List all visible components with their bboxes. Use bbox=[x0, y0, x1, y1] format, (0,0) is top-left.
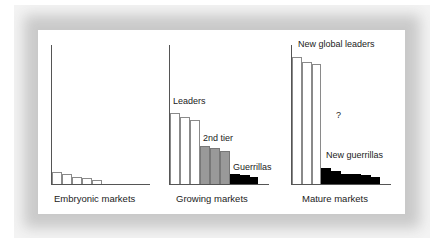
embryonic-bar bbox=[82, 178, 92, 184]
leader-bar bbox=[170, 113, 180, 184]
new-guerrilla-bar bbox=[351, 174, 361, 184]
growing-x-axis bbox=[169, 184, 269, 185]
second-tier-bar bbox=[220, 151, 230, 184]
embryonic-bar bbox=[62, 174, 72, 184]
embryonic-caption: Embryonic markets bbox=[54, 193, 135, 204]
question-mark-annotation: ? bbox=[336, 110, 341, 120]
embryonic-y-axis bbox=[51, 45, 52, 184]
leaders-label: Leaders bbox=[173, 96, 206, 106]
new-leader-bar bbox=[302, 62, 312, 184]
guerrilla-bar bbox=[230, 174, 240, 184]
leader-bar bbox=[180, 117, 190, 184]
mature-caption: Mature markets bbox=[302, 193, 368, 204]
embryonic-bar bbox=[92, 180, 102, 184]
second-tier-label: 2nd tier bbox=[203, 133, 233, 143]
diagram-panel bbox=[38, 30, 405, 214]
second-tier-bar bbox=[200, 146, 210, 184]
new-guerrilla-bar bbox=[321, 168, 331, 184]
new-guerrilla-bar bbox=[341, 174, 351, 184]
new-guerrilla-bar bbox=[371, 177, 380, 184]
new-guerrilla-bar bbox=[361, 175, 371, 184]
embryonic-bar bbox=[72, 177, 82, 184]
embryonic-bar bbox=[52, 172, 62, 184]
embryonic-x-axis bbox=[51, 184, 150, 185]
leader-bar bbox=[190, 120, 200, 184]
guerrilla-bar bbox=[250, 177, 258, 184]
mature-x-axis bbox=[291, 184, 391, 185]
new-guerrilla-bar bbox=[331, 171, 341, 184]
new-leader-bar bbox=[292, 57, 302, 184]
second-tier-bar bbox=[210, 148, 220, 184]
guerrilla-bar bbox=[240, 175, 250, 184]
new-global-leaders-label: New global leaders bbox=[298, 39, 375, 49]
growing-caption: Growing markets bbox=[176, 193, 248, 204]
guerrillas-label: Guerrillas bbox=[233, 162, 272, 172]
new-leader-bar bbox=[312, 64, 321, 184]
new-guerrillas-label: New guerrillas bbox=[326, 150, 383, 160]
